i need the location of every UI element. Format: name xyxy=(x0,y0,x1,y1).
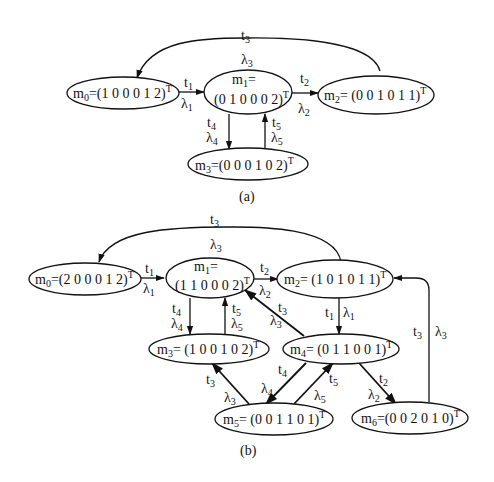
node-b-m3: m3= (1 0 0 1 0 2)T xyxy=(149,334,269,364)
label-b-lambda5: λ5 xyxy=(231,316,243,333)
label-a-lambda3: λ3 xyxy=(241,52,253,69)
label-b-lambda1: λ1 xyxy=(143,281,155,298)
node-a-m3: m3=(0 0 0 1 0 2)T xyxy=(188,148,308,180)
node-b-m4: m4= (0 1 1 0 0 1)T xyxy=(283,334,399,364)
svg-text:m5= (0 0 1 1 0 1)T: m5= (0 0 1 1 0 1)T xyxy=(223,409,325,429)
svg-text:m2= (0 0 1 0 1 1)T: m2= (0 0 1 0 1 1)T xyxy=(324,85,426,105)
node-b-m0: m0=(2 0 0 0 1 2)T xyxy=(29,263,141,295)
label-b-lambda2: λ2 xyxy=(259,283,271,300)
label-b-lambda3-bottom-left: λ3 xyxy=(224,390,236,407)
label-a-lambda4: λ4 xyxy=(206,130,218,147)
svg-text:(0 1 0 0 0 2)T: (0 1 0 0 0 2)T xyxy=(214,89,289,108)
svg-text:m4= (0 1 1 0 0 1)T: m4= (0 1 1 0 0 1)T xyxy=(290,339,392,359)
label-a-lambda1: λ1 xyxy=(181,96,193,113)
label-b-t1-right: t1 xyxy=(325,305,334,322)
label-b-lambda5-bottom: λ5 xyxy=(314,388,326,405)
label-a-lambda5: λ5 xyxy=(271,130,283,147)
label-a-t1: t1 xyxy=(184,75,193,92)
caption-a: (a) xyxy=(239,189,255,205)
diagram-b: t3 λ3 t1 λ1 t2 λ2 t4 λ4 t5 λ5 t3 λ3 t1 λ… xyxy=(29,212,468,459)
label-b-lambda3-far-right: λ3 xyxy=(435,324,447,341)
node-a-m1: m1= (0 1 0 0 0 2)T xyxy=(204,70,292,114)
caption-b: (b) xyxy=(240,443,257,459)
label-a-t2: t2 xyxy=(300,71,309,88)
node-a-m2: m2= (0 0 1 0 1 1)T xyxy=(318,76,434,114)
label-b-lambda4-bottom: λ4 xyxy=(261,381,273,398)
node-a-m0: m0=(1 0 0 0 1 2)T xyxy=(67,77,179,109)
label-a-t3: t3 xyxy=(241,28,250,45)
label-b-lambda3-top: λ3 xyxy=(210,237,222,254)
node-b-m2: m2= (1 0 1 0 1 1)T xyxy=(277,260,393,298)
label-b-t2: t2 xyxy=(260,260,269,277)
node-b-m6: m6=(0 0 2 0 1 0)T xyxy=(352,402,468,434)
reachability-graph-figure: t3 λ3 t1 λ1 t2 λ2 t4 λ4 t5 λ5 m0=(1 0 0 … xyxy=(0,0,494,482)
label-a-lambda2: λ2 xyxy=(298,101,310,118)
node-b-m1: m1= (1 1 0 0 0 2)T xyxy=(166,258,254,298)
label-b-t3-diag: t3 xyxy=(278,300,287,317)
svg-text:m2= (1 0 1 0 1 1)T: m2= (1 0 1 0 1 1)T xyxy=(284,269,386,289)
label-b-t3-far-right: t3 xyxy=(413,324,422,341)
label-b-lambda1-right: λ1 xyxy=(343,305,355,322)
node-b-m5: m5= (0 0 1 1 0 1)T xyxy=(215,403,333,435)
label-b-t5-bottom: t5 xyxy=(329,371,338,388)
label-b-t1: t1 xyxy=(145,261,154,278)
label-b-lambda3-diag: λ3 xyxy=(270,313,282,330)
edge-b-m6-m2 xyxy=(394,278,429,402)
label-b-lambda2-bottom: λ2 xyxy=(368,387,380,404)
diagram-a: t3 λ3 t1 λ1 t2 λ2 t4 λ4 t5 λ5 m0=(1 0 0 … xyxy=(67,28,434,205)
svg-text:m3= (1 0 0 1 0 2)T: m3= (1 0 0 1 0 2)T xyxy=(157,339,259,359)
label-b-lambda4: λ4 xyxy=(171,316,183,333)
label-b-t4-bottom: t4 xyxy=(278,362,287,379)
label-b-t3-bottom-left: t3 xyxy=(206,372,215,389)
svg-text:(1 1 0 0 0 2)T: (1 1 0 0 0 2)T xyxy=(175,275,250,294)
label-b-t2-bottom: t2 xyxy=(379,371,388,388)
label-b-t3-top: t3 xyxy=(210,212,219,229)
